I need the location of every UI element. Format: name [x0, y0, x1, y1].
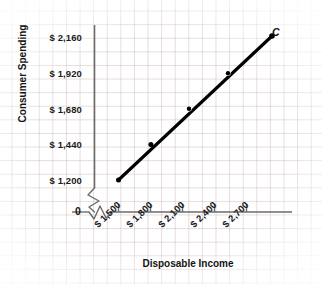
- data-point: [226, 71, 230, 75]
- y-tick-label: $ 1,200: [14, 175, 82, 186]
- y-tick-label: $ 1,440: [14, 139, 82, 150]
- consumption-function-line: [119, 36, 273, 180]
- data-point: [187, 107, 191, 111]
- x-axis-title: Disposable Income: [118, 258, 258, 269]
- data-point: [148, 142, 153, 147]
- y-axis-break-icon: [88, 188, 99, 212]
- consumer-spending-chart: $ 2,160 $ 1,920 $ 1,680 $ 1,440 $ 1,200 …: [0, 0, 322, 285]
- origin-label: 0: [75, 205, 81, 217]
- curve-label-c: C: [272, 26, 280, 38]
- data-point: [116, 178, 121, 183]
- y-axis-title: Consumer Spending: [17, 14, 28, 134]
